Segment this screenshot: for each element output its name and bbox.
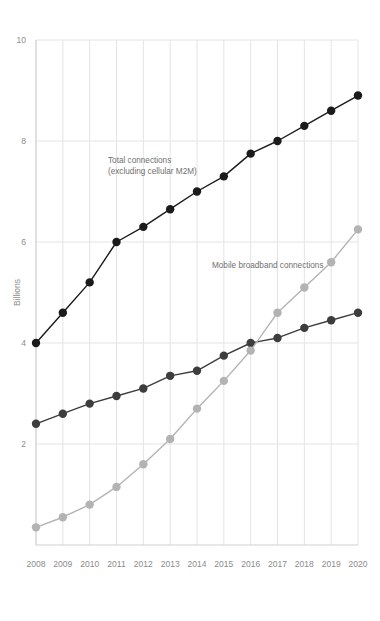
data-point-marker xyxy=(327,258,335,266)
annotation-line: Mobile broadband connections xyxy=(212,261,324,270)
x-tick-label: 2016 xyxy=(241,559,260,569)
x-tick-label: 2013 xyxy=(161,559,180,569)
data-point-marker xyxy=(246,149,254,157)
data-point-marker xyxy=(139,223,147,231)
x-tick-label: 2008 xyxy=(27,559,46,569)
data-point-marker xyxy=(327,316,335,324)
data-point-marker xyxy=(327,107,335,115)
y-tick-label: 6 xyxy=(21,237,26,247)
data-point-marker xyxy=(300,283,308,291)
data-point-marker xyxy=(59,309,67,317)
x-tick-label: 2018 xyxy=(295,559,314,569)
data-point-marker xyxy=(273,309,281,317)
x-tick-label: 2017 xyxy=(268,559,287,569)
x-tick-label: 2014 xyxy=(188,559,207,569)
x-tick-label: 2012 xyxy=(134,559,153,569)
y-tick-label: 4 xyxy=(21,338,26,348)
chart-background xyxy=(0,0,380,621)
data-point-marker xyxy=(193,404,201,412)
data-point-marker xyxy=(166,372,174,380)
data-point-marker xyxy=(166,205,174,213)
data-point-marker xyxy=(220,351,228,359)
data-point-marker xyxy=(139,384,147,392)
data-point-marker xyxy=(112,238,120,246)
annotation-line: Total connections xyxy=(108,156,171,165)
data-point-marker xyxy=(85,278,93,286)
y-tick-label: 2 xyxy=(21,439,26,449)
data-point-marker xyxy=(193,367,201,375)
data-point-marker xyxy=(300,122,308,130)
y-axis-title: Billions xyxy=(12,279,22,306)
data-point-marker xyxy=(220,172,228,180)
data-point-marker xyxy=(85,399,93,407)
data-point-marker xyxy=(112,392,120,400)
data-point-marker xyxy=(354,309,362,317)
data-point-marker xyxy=(273,334,281,342)
data-point-marker xyxy=(354,225,362,233)
x-tick-label: 2020 xyxy=(349,559,368,569)
data-point-marker xyxy=(166,435,174,443)
line-chart: 246810 200820092010201120122013201420152… xyxy=(0,0,380,621)
data-point-marker xyxy=(112,483,120,491)
data-point-marker xyxy=(59,410,67,418)
y-tick-label: 8 xyxy=(21,136,26,146)
x-tick-label: 2010 xyxy=(80,559,99,569)
data-point-marker xyxy=(193,187,201,195)
annotation-line: (excluding cellular M2M) xyxy=(108,167,197,176)
x-tick-label: 2015 xyxy=(214,559,233,569)
data-point-marker xyxy=(139,460,147,468)
x-tick-label: 2009 xyxy=(53,559,72,569)
y-axis-title-text: Billions xyxy=(12,279,22,306)
data-point-marker xyxy=(354,91,362,99)
chart-container: 246810 200820092010201120122013201420152… xyxy=(0,0,380,621)
data-point-marker xyxy=(300,324,308,332)
y-tick-label: 10 xyxy=(17,35,27,45)
data-point-marker xyxy=(59,513,67,521)
data-point-marker xyxy=(246,346,254,354)
x-tick-label: 2011 xyxy=(107,559,126,569)
x-tick-label: 2019 xyxy=(322,559,341,569)
data-point-marker xyxy=(85,500,93,508)
mobile-broadband-label: Mobile broadband connections xyxy=(212,261,324,270)
data-point-marker xyxy=(32,523,40,531)
data-point-marker xyxy=(32,339,40,347)
data-point-marker xyxy=(220,377,228,385)
data-point-marker xyxy=(32,420,40,428)
data-point-marker xyxy=(273,137,281,145)
